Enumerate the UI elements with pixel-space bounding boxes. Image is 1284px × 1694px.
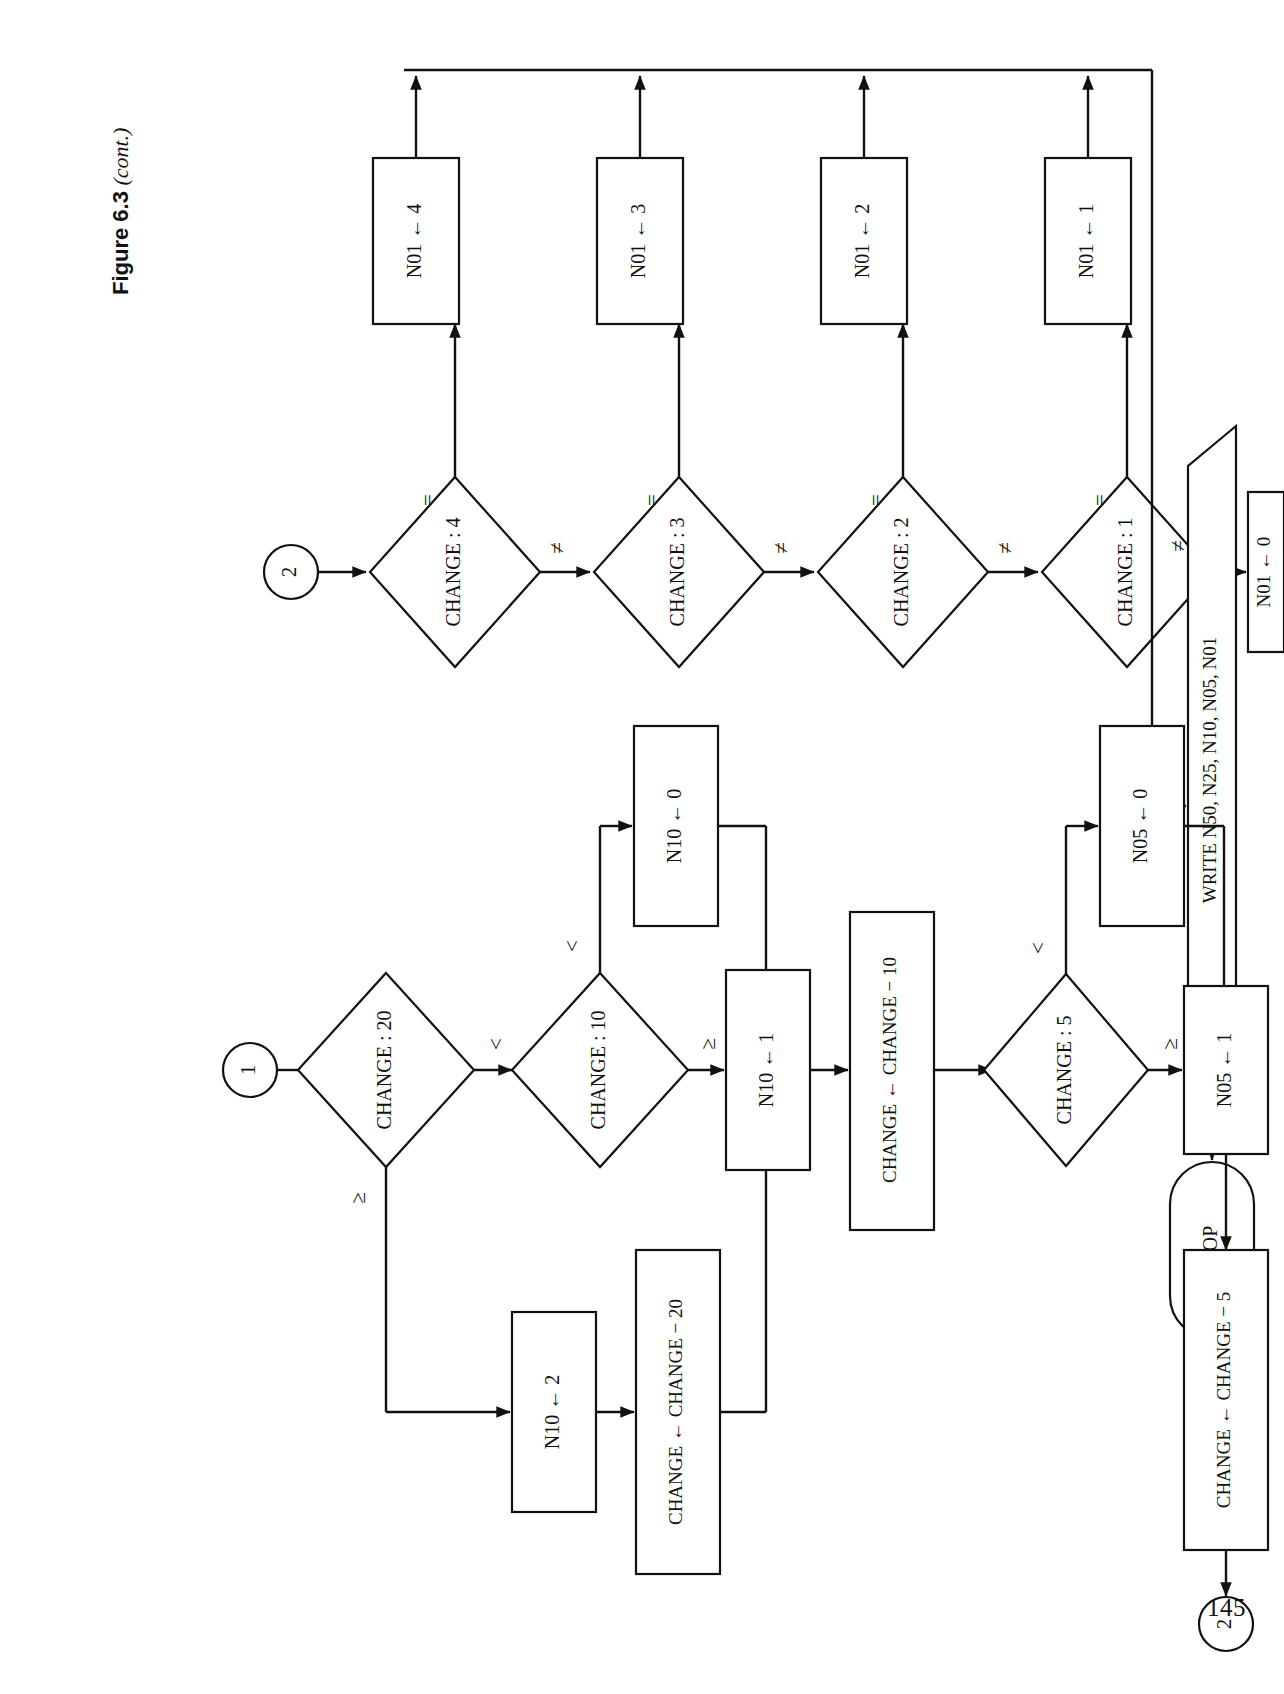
branch-label-change-2-notequal: ≠ — [993, 542, 1017, 554]
figure-continuation-note: (cont.) — [108, 128, 133, 186]
branch-label-change-10-lessthan: < — [560, 940, 584, 952]
branch-label-change-5-lessthan: < — [1026, 942, 1050, 954]
branch-label-change-5-greaterequal: ≥ — [1158, 1038, 1182, 1050]
branch-label-change-10-greaterequal: ≥ — [696, 1038, 720, 1050]
decision-change-1-label: CHANGE : 1 — [1114, 518, 1136, 627]
connector-2-entry-label: 2 — [277, 567, 301, 578]
branch-label-change-3-notequal: ≠ — [769, 542, 793, 554]
branch-label-change-2-equal: = — [864, 494, 888, 506]
process-n05-1-label: N05 ← 1 — [1213, 1033, 1235, 1107]
process-n10-2-label: N10 ← 2 — [541, 1375, 563, 1449]
process-n10-1-label: N10 ← 1 — [755, 1033, 777, 1107]
process-n01-0-label: N01 ← 0 — [1253, 537, 1274, 608]
decision-change-5-label: CHANGE : 5 — [1053, 1016, 1075, 1125]
branch-label-change-20-greaterequal: ≥ — [346, 1192, 370, 1204]
branch-label-change-1-equal: = — [1088, 494, 1112, 506]
process-n01-4-label: N01 ← 4 — [403, 204, 425, 278]
process-n01-2-label: N01 ← 2 — [851, 204, 873, 278]
decision-change-2-label: CHANGE : 2 — [890, 518, 912, 627]
io-write-node-label: WRITE N50, N25, N10, N05, N01 — [1199, 637, 1220, 904]
figure-caption: Figure 6.3 (cont.) — [108, 128, 134, 295]
branch-label-change-1-notequal: ≠ — [1166, 540, 1190, 552]
branch-label-change-4-equal: = — [416, 494, 440, 506]
branch-label-change-3-equal: = — [640, 494, 664, 506]
decision-change-4-label: CHANGE : 4 — [442, 518, 464, 627]
process-n05-0-label: N05 ← 0 — [1129, 789, 1151, 863]
decision-change-10-label: CHANGE : 10 — [587, 1011, 609, 1130]
process-n10-0-label: N10 ← 0 — [663, 789, 685, 863]
process-change-minus-5-label: CHANGE ← CHANGE − 5 — [1213, 1292, 1234, 1509]
branch-label-change-4-notequal: ≠ — [545, 542, 569, 554]
flowchart-figure-6-3-cont: 2CHANGE : 4=N01 ← 4≠CHANGE : 3=N01 ← 3≠C… — [0, 0, 1284, 1694]
decision-change-20-label: CHANGE : 20 — [373, 1011, 395, 1130]
process-change-minus-10-label: CHANGE ← CHANGE − 10 — [879, 957, 900, 1183]
branch-label-change-20-lessthan: < — [484, 1038, 508, 1050]
decision-change-3-label: CHANGE : 3 — [666, 518, 688, 627]
process-n01-3-label: N01 ← 3 — [627, 204, 649, 278]
process-change-minus-20-label: CHANGE ← CHANGE − 20 — [665, 1299, 686, 1525]
figure-label: Figure 6.3 — [108, 191, 133, 295]
process-n01-1-label: N01 ← 1 — [1075, 204, 1097, 278]
connector-1-entry-label: 1 — [236, 1065, 260, 1076]
page-number: 145 — [1207, 1594, 1246, 1622]
